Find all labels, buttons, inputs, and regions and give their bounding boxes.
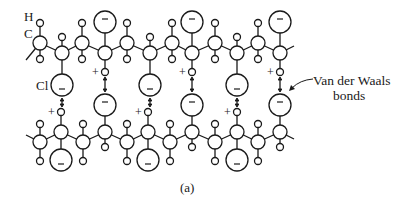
atoms — [33, 11, 291, 171]
carbon-atom — [98, 46, 112, 60]
arrowhead-up-icon — [190, 77, 194, 80]
carbon-atom — [230, 46, 244, 60]
positive-charge-label: + — [92, 65, 99, 79]
carbon-atom — [185, 125, 199, 139]
hydrogen-atom — [212, 121, 219, 128]
arrowhead-up-icon — [148, 98, 152, 101]
carbon-atom — [76, 135, 90, 149]
hydrogen-atom — [37, 121, 44, 128]
carbon-label: C — [24, 26, 33, 41]
hydrogen-atom — [169, 20, 176, 27]
carbon-atom — [33, 36, 47, 50]
carbon-atom — [208, 36, 222, 50]
hydrogen-atom — [212, 20, 219, 27]
chlorine-atom — [137, 149, 159, 171]
chlorine-atom — [94, 94, 116, 116]
hydrogen-atom — [102, 144, 109, 151]
carbon-atom — [165, 36, 179, 50]
hydrogen-atom — [212, 158, 219, 165]
hydrogen-atom — [37, 56, 44, 63]
positive-charge-label: + — [267, 65, 274, 79]
hydrogen-atom — [234, 34, 241, 41]
hydrogen-atom — [169, 56, 176, 63]
hydrogen-atom — [79, 56, 86, 63]
positive-charge-label: + — [224, 105, 231, 119]
carbon-atom — [163, 135, 177, 149]
carbon-atom — [251, 135, 265, 149]
chlorine-atom — [226, 74, 248, 96]
hydrogen-atom — [124, 158, 131, 165]
hydrogen-atom — [37, 20, 44, 27]
arrowhead-down-icon — [148, 104, 152, 107]
vdw-label-line1: Van der Waals — [313, 73, 390, 88]
vdw-label-line2: bonds — [333, 88, 365, 103]
chlorine-atom — [181, 11, 203, 33]
hydrogen-atom — [59, 34, 66, 41]
carbon-atom — [120, 135, 134, 149]
hydrogen-atom — [124, 56, 131, 63]
carbon-atom — [185, 46, 199, 60]
hydrogen-atom — [167, 158, 174, 165]
hydrogen-atom — [147, 34, 154, 41]
arrowhead-down-icon — [103, 89, 107, 92]
arrowhead-down-icon — [235, 104, 239, 107]
arrowhead-up-icon — [235, 98, 239, 101]
arrowhead-down-icon — [190, 89, 194, 92]
carbon-atom — [98, 125, 112, 139]
positive-charge-label: + — [48, 105, 55, 119]
chlorine-atom — [94, 11, 116, 33]
carbon-atom — [273, 125, 287, 139]
chlorine-atom — [50, 149, 72, 171]
vdw-pointer-arrow — [292, 79, 313, 88]
arrowhead-up-icon — [60, 98, 64, 101]
chlorine-atom — [139, 74, 161, 96]
carbon-atom — [208, 135, 222, 149]
hydrogen-atom — [145, 109, 152, 116]
carbon-atom — [143, 46, 157, 60]
hydrogen-atom — [189, 144, 196, 151]
hydrogen-atom — [124, 121, 131, 128]
carbon-atom — [120, 36, 134, 50]
chlorine-label: Cl — [36, 78, 49, 93]
carbon-atom — [54, 125, 68, 139]
arrowhead-down-icon — [278, 89, 282, 92]
chlorine-atom — [51, 74, 73, 96]
positive-charge-label: + — [135, 105, 142, 119]
hydrogen-atom — [277, 69, 284, 76]
hydrogen-atom — [212, 56, 219, 63]
hydrogen-atom — [79, 20, 86, 27]
hydrogen-atom — [234, 109, 241, 116]
carbon-atom — [273, 46, 287, 60]
hydrogen-atom — [277, 144, 284, 151]
arrowhead-down-icon — [60, 104, 64, 107]
figure-caption: (a) — [180, 180, 194, 195]
carbon-atom — [33, 135, 47, 149]
hydrogen-atom — [255, 121, 262, 128]
hydrogen-atom — [80, 121, 87, 128]
hydrogen-atom — [255, 158, 262, 165]
hydrogen-atom — [102, 69, 109, 76]
hydrogen-label: H — [24, 9, 33, 24]
carbon-atom — [75, 36, 89, 50]
positive-charge-label: + — [179, 65, 186, 79]
hydrogen-atom — [37, 158, 44, 165]
hydrogen-atom — [255, 20, 262, 27]
hydrogen-atom — [124, 20, 131, 27]
carbon-atom — [230, 125, 244, 139]
hydrogen-atom — [255, 56, 262, 63]
hydrogen-atom — [167, 121, 174, 128]
arrowhead-up-icon — [278, 77, 282, 80]
carbon-atom — [251, 36, 265, 50]
hydrogen-atom — [80, 158, 87, 165]
chlorine-atom — [226, 149, 248, 171]
hydrogen-atom — [189, 69, 196, 76]
pvc-chain-diagram: H C Cl Van der Waals bonds (a) ++++++ — [0, 0, 409, 198]
carbon-atom — [141, 125, 155, 139]
chlorine-atom — [181, 94, 203, 116]
chlorine-atom — [269, 11, 291, 33]
hydrogen-atom — [58, 109, 65, 116]
carbon-atom — [55, 46, 69, 60]
arrowhead-up-icon — [103, 77, 107, 80]
chlorine-atom — [269, 94, 291, 116]
vdw-arrows — [60, 77, 282, 107]
